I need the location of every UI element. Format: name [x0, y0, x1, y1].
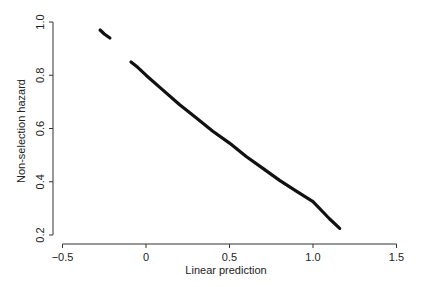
- y-tick-label: 0.4: [34, 174, 46, 189]
- hazard-chart: −0.500.51.01.50.20.40.60.81.0 Linear pre…: [0, 0, 425, 287]
- data-series: [100, 30, 340, 228]
- axes: −0.500.51.01.50.20.40.60.81.0: [34, 14, 404, 263]
- x-tick-label: 0.5: [222, 251, 237, 263]
- x-tick-label: −0.5: [52, 251, 74, 263]
- hazard-curve-segment-1: [100, 30, 110, 38]
- x-tick-label: 1.0: [305, 251, 320, 263]
- y-tick-label: 0.8: [34, 68, 46, 83]
- y-axis-title: Non-selection hazard: [15, 79, 27, 183]
- y-tick-label: 0.2: [34, 227, 46, 242]
- x-tick-label: 1.5: [389, 251, 404, 263]
- x-tick-label: 0: [143, 251, 149, 263]
- y-tick-label: 1.0: [34, 14, 46, 29]
- x-axis-title: Linear prediction: [185, 264, 266, 276]
- hazard-curve-segment-2: [131, 62, 340, 228]
- y-tick-label: 0.6: [34, 121, 46, 136]
